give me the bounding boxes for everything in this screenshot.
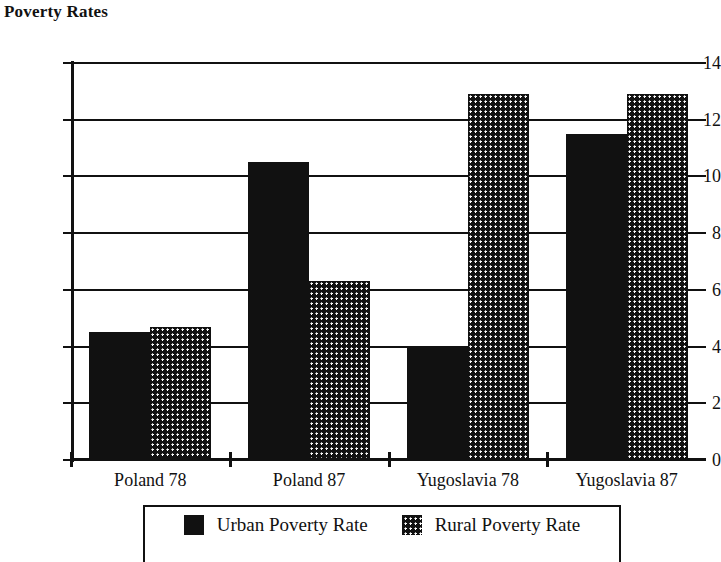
bar-urban [248, 162, 309, 460]
legend-entry: Urban Poverty Rate [184, 514, 368, 536]
bar-urban [89, 332, 150, 460]
x-tick-mark [70, 452, 73, 467]
poverty-rates-chart: Poverty Rates 02468101214 Poland 78Polan… [0, 0, 721, 562]
stipple-swatch-icon [402, 515, 422, 535]
bar-rural [468, 94, 529, 460]
bar-urban [566, 134, 627, 460]
bar-rural [309, 281, 370, 460]
x-tick-mark [229, 452, 232, 467]
solid-swatch-icon [184, 515, 204, 535]
x-tick-mark [388, 452, 391, 467]
chart-title: Poverty Rates [4, 2, 108, 22]
legend-label: Urban Poverty Rate [217, 514, 368, 536]
x-tick-label: Poland 78 [114, 470, 187, 490]
x-tick-label: Yugoslavia 78 [417, 470, 520, 490]
bars-layer [71, 63, 706, 460]
x-tick-label: Poland 87 [273, 470, 346, 490]
bar-rural [150, 327, 211, 460]
bar-rural [627, 94, 688, 460]
x-tick-label: Yugoslavia 87 [575, 470, 678, 490]
legend-label: Rural Poverty Rate [435, 514, 581, 536]
legend-entries: Urban Poverty RateRural Poverty Rate [145, 514, 619, 536]
legend-entry: Rural Poverty Rate [402, 514, 581, 536]
x-tick-mark [546, 452, 549, 467]
bar-urban [407, 347, 468, 460]
chart-legend: Urban Poverty RateRural Poverty Rate [143, 505, 621, 562]
